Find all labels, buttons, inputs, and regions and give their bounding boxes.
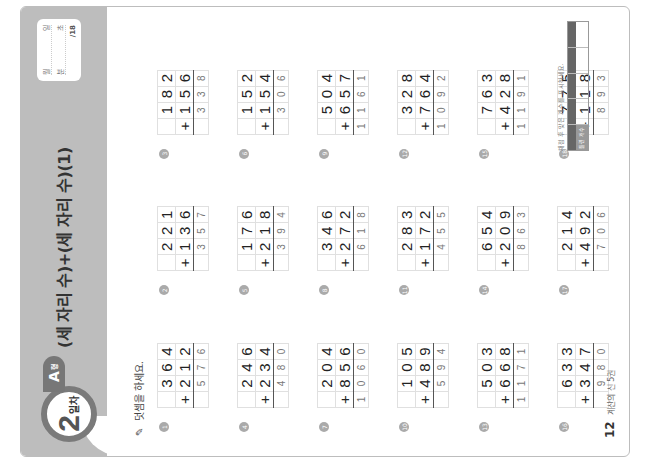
answer-cell[interactable]: 6 (274, 70, 289, 86)
answer-cell[interactable]: 0 (274, 86, 289, 102)
answer-cell[interactable]: 9 (594, 86, 609, 102)
type-tab: A 형 (43, 356, 65, 392)
minute-label: 분 (55, 69, 65, 75)
day-number: 2 (52, 415, 86, 432)
answer-cell[interactable]: 6 (354, 239, 369, 255)
answer-cell[interactable]: 1 (434, 118, 449, 134)
answer-cell[interactable]: 8 (194, 70, 209, 86)
addition-table: 246+234480 (237, 343, 289, 408)
digit-cell: 4 (478, 207, 496, 223)
digit-cell (158, 118, 176, 134)
answer-cell[interactable]: 1 (514, 392, 529, 408)
answer-cell[interactable]: 9 (434, 86, 449, 102)
answer-cell[interactable]: 6 (514, 223, 529, 239)
answer-cell[interactable]: 3 (194, 86, 209, 102)
self-check-caption: 채점 후 맞은 개수를 표시하세요. (556, 21, 565, 151)
answer-cell[interactable]: 1 (514, 102, 529, 118)
answer-cell[interactable]: 5 (434, 223, 449, 239)
addend-row: +492 (576, 207, 594, 271)
answer-cell[interactable]: 0 (434, 102, 449, 118)
answer-cell[interactable]: 4 (434, 239, 449, 255)
answer-cell[interactable]: 7 (594, 239, 609, 255)
problem-item: 8346+272618 (317, 159, 369, 296)
answer-cell[interactable]: 0 (274, 344, 289, 360)
answer-cell[interactable]: 3 (194, 239, 209, 255)
answer-cell[interactable]: 5 (434, 207, 449, 223)
answer-cell[interactable]: 5 (194, 223, 209, 239)
answer-cell[interactable] (594, 118, 609, 134)
answer-cell[interactable]: 1 (514, 344, 529, 360)
augend-row: 763 (478, 70, 496, 134)
answer-cell[interactable]: 5 (434, 376, 449, 392)
answer-cell[interactable]: 5 (194, 376, 209, 392)
answer-cell[interactable] (194, 392, 209, 408)
answer-cell[interactable]: 6 (194, 344, 209, 360)
answer-cell[interactable]: 6 (594, 207, 609, 223)
answer-cell[interactable]: 3 (194, 102, 209, 118)
answer-cell[interactable] (594, 255, 609, 271)
answer-cell[interactable]: 4 (274, 207, 289, 223)
answer-cell[interactable]: 1 (514, 376, 529, 392)
self-check-cell: 틀린 개수 (568, 125, 588, 150)
answer-cell[interactable]: 0 (594, 344, 609, 360)
augend-row: 105 (398, 344, 416, 408)
answer-cell[interactable]: 4 (274, 376, 289, 392)
augend-row: 246 (238, 344, 256, 408)
digit-cell: + (496, 118, 514, 134)
answer-cell[interactable] (274, 118, 289, 134)
digit-cell: 0 (318, 360, 336, 376)
answer-cell[interactable] (354, 255, 369, 271)
digit-cell (238, 392, 256, 408)
digit-cell: 1 (558, 223, 576, 239)
answer-cell[interactable]: 8 (594, 102, 609, 118)
digit-cell: 5 (398, 344, 416, 360)
answer-cell[interactable] (434, 255, 449, 271)
answer-cell[interactable]: 2 (434, 70, 449, 86)
answer-cell[interactable] (194, 255, 209, 271)
answer-cell[interactable] (514, 255, 529, 271)
answer-cell[interactable]: 1 (514, 118, 529, 134)
answer-cell[interactable]: 9 (514, 86, 529, 102)
answer-cell[interactable]: 3 (514, 207, 529, 223)
problem-number: 9 (319, 149, 329, 159)
answer-cell[interactable]: 1 (354, 392, 369, 408)
answer-cell[interactable]: 6 (354, 360, 369, 376)
digit-cell: 1 (176, 102, 194, 118)
answer-cell[interactable]: 0 (594, 223, 609, 239)
answer-cell[interactable]: 9 (434, 360, 449, 376)
answer-cell[interactable]: 3 (274, 239, 289, 255)
answer-cell[interactable]: 3 (594, 70, 609, 86)
answer-cell[interactable]: 1 (354, 223, 369, 239)
answer-cell[interactable]: 9 (274, 223, 289, 239)
answer-cell[interactable]: 8 (514, 239, 529, 255)
digit-cell: 8 (336, 376, 354, 392)
answer-cell[interactable]: 7 (194, 360, 209, 376)
answer-cell[interactable]: 7 (514, 360, 529, 376)
digit-cell: 1 (158, 102, 176, 118)
answer-cell[interactable]: 0 (354, 376, 369, 392)
digit-cell (238, 118, 256, 134)
answer-cell[interactable]: 1 (354, 102, 369, 118)
addend-row: +212 (176, 344, 194, 408)
digit-cell: 3 (318, 239, 336, 255)
answer-cell[interactable]: 0 (354, 344, 369, 360)
addend-row: +156 (176, 70, 194, 134)
answer-cell[interactable]: 7 (194, 207, 209, 223)
answer-cell[interactable] (274, 255, 289, 271)
answer-cell[interactable]: 3 (274, 102, 289, 118)
answer-cell[interactable] (274, 392, 289, 408)
answer-cell[interactable]: 8 (274, 360, 289, 376)
digit-cell: + (496, 255, 514, 271)
answer-cell[interactable] (434, 392, 449, 408)
answer-cell[interactable]: 1 (354, 70, 369, 86)
answer-cell[interactable]: 6 (354, 86, 369, 102)
answer-cell[interactable]: 4 (434, 344, 449, 360)
answer-cell[interactable] (194, 118, 209, 134)
answer-row: 893 (594, 70, 609, 134)
digit-cell: 6 (496, 376, 514, 392)
digit-cell: 6 (318, 207, 336, 223)
answer-cell[interactable]: 1 (354, 118, 369, 134)
answer-cell[interactable]: 1 (514, 70, 529, 86)
page-footer: 12 계산의 신 5권 (603, 370, 617, 438)
answer-cell[interactable]: 8 (354, 207, 369, 223)
